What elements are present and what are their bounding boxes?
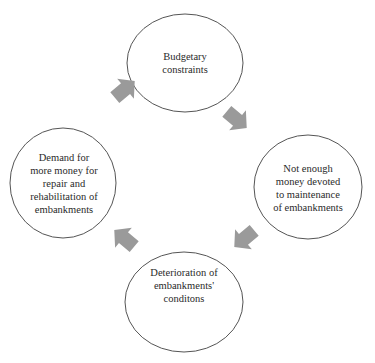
node-budget: Budgetary constraints — [135, 40, 235, 86]
arrow-deterioration-to-demand-icon — [106, 220, 143, 257]
node-deterioration: Deterioration of embankments' conditons — [132, 260, 236, 310]
arrow-budget-to-maintenance-icon — [218, 101, 255, 138]
node-demand: Demand for more money for repair and reh… — [14, 148, 114, 218]
arrow-maintenance-to-deterioration-icon — [226, 220, 263, 257]
node-maintenance-label: Not enough money devoted to maintenance … — [273, 162, 343, 214]
node-maintenance: Not enough money devoted to maintenance … — [260, 160, 356, 216]
node-deterioration-label: Deterioration of embankments' conditons — [150, 266, 217, 305]
node-demand-label: Demand for more money for repair and reh… — [30, 151, 98, 216]
node-budget-label: Budgetary constraints — [162, 50, 208, 76]
